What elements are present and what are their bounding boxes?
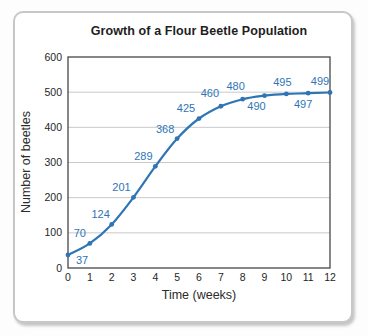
x-tick-label: 0 — [65, 271, 71, 283]
data-point-label: 37 — [76, 254, 88, 266]
x-tick-label: 5 — [174, 271, 180, 283]
data-point-label: 70 — [74, 227, 86, 239]
x-tick-label: 6 — [196, 271, 202, 283]
x-axis-title: Time (weeks) — [68, 288, 330, 302]
data-point-label: 425 — [177, 102, 195, 114]
data-point — [262, 93, 267, 98]
data-point-label: 490 — [247, 100, 265, 112]
data-point-label: 201 — [112, 181, 130, 193]
y-tick-label: 600 — [44, 51, 62, 63]
data-point — [87, 241, 92, 246]
x-tick-label: 8 — [240, 271, 246, 283]
data-point-label: 124 — [91, 208, 109, 220]
data-point — [197, 116, 202, 121]
y-tick-label: 200 — [44, 191, 62, 203]
data-point — [306, 91, 311, 96]
x-tick-label: 9 — [262, 271, 268, 283]
data-point — [328, 90, 333, 95]
x-tick-label: 1 — [87, 271, 93, 283]
y-tick-label: 100 — [44, 226, 62, 238]
data-point — [284, 92, 289, 97]
data-point — [109, 222, 114, 227]
y-tick-label: 0 — [56, 262, 62, 274]
x-tick-label: 10 — [280, 271, 292, 283]
x-tick-label: 4 — [152, 271, 158, 283]
y-tick-label: 400 — [44, 121, 62, 133]
data-point-label: 460 — [201, 87, 219, 99]
data-point — [66, 253, 71, 258]
data-point — [131, 195, 136, 200]
data-point — [153, 164, 158, 169]
x-tick-label: 12 — [324, 271, 336, 283]
y-tick-label: 500 — [44, 86, 62, 98]
data-point-label: 495 — [273, 76, 291, 88]
data-point-label: 480 — [226, 80, 244, 92]
data-point — [218, 104, 223, 109]
x-tick-label: 7 — [218, 271, 224, 283]
data-point-label: 368 — [156, 123, 174, 135]
y-tick-label: 300 — [44, 156, 62, 168]
data-point-label: 289 — [134, 150, 152, 162]
x-tick-label: 3 — [131, 271, 137, 283]
x-tick-label: 2 — [109, 271, 115, 283]
data-point-label: 499 — [311, 75, 329, 87]
data-point — [240, 97, 245, 102]
data-point-label: 497 — [294, 98, 312, 110]
x-tick-label: 11 — [303, 271, 314, 283]
chart-svg: 0100200300400500600012345678910111237701… — [0, 0, 368, 336]
data-point — [175, 136, 180, 141]
